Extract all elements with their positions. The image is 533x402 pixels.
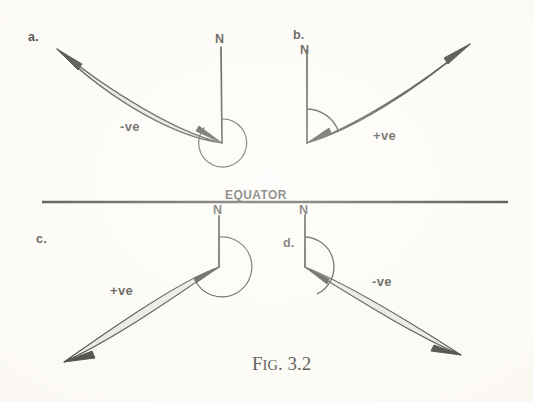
panel-b-angle-arc (307, 109, 338, 130)
panel-b-sign-label: +ve (373, 128, 396, 143)
panel-d-letter: d. (283, 236, 295, 250)
panel-c-arrow-base (194, 267, 219, 283)
caption-number: . 3.2 (278, 353, 311, 374)
panel-a-letter: a. (28, 30, 39, 44)
panel-b-letter: b. (293, 28, 305, 42)
panel-d-north-label: N (299, 203, 308, 217)
panel-a-north-label: N (215, 32, 224, 46)
panel-b-north-label: N (300, 43, 309, 57)
panel-d-angle-arc (305, 237, 334, 294)
panel-a-north-vector (221, 47, 222, 143)
figure-caption: FIG. 3.2 (252, 353, 311, 375)
panel-c-angle-arc (196, 237, 252, 297)
caption-smallcaps: IG (263, 357, 278, 373)
panel-c-sign-label: +ve (110, 283, 133, 298)
panel-c-drawing (64, 216, 252, 362)
panel-c-north-label: N (213, 203, 222, 217)
figure-container: a. N -ve b. N +ve EQUATOR c. N +ve d. N … (0, 0, 533, 402)
caption-lead: F (252, 353, 263, 374)
panel-a-sign-label: -ve (120, 119, 140, 134)
panel-a-drawing (57, 47, 247, 167)
panel-d-sign-label: -ve (372, 274, 392, 289)
equator-label: EQUATOR (225, 188, 287, 202)
panel-a-arrow-head (57, 49, 82, 70)
panel-c-letter: c. (36, 232, 47, 246)
panel-b-arrow-head (444, 44, 470, 64)
